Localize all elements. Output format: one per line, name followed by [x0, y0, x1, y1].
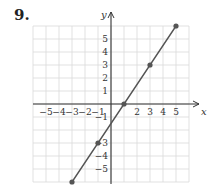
y-tick-label: 5 — [102, 34, 108, 44]
x-tick-label: 5 — [173, 107, 179, 117]
x-tick-label: 3 — [147, 107, 153, 117]
y-tick-label: −1 — [95, 112, 108, 122]
x-tick-label: −5 — [39, 107, 53, 117]
x-tick-label: −3 — [65, 107, 79, 117]
data-point — [147, 62, 152, 67]
data-point — [173, 23, 178, 28]
data-point — [121, 101, 126, 106]
x-axis-label: x — [201, 106, 207, 117]
y-tick-label: −4 — [95, 151, 109, 161]
x-tick-label: 2 — [134, 107, 140, 117]
x-tick-label: −2 — [78, 107, 91, 117]
x-tick-label: 4 — [160, 107, 166, 117]
y-tick-label: 2 — [102, 73, 108, 83]
y-tick-label: 4 — [102, 47, 108, 57]
data-point — [69, 179, 74, 184]
y-tick-label: 1 — [102, 86, 108, 96]
data-point — [95, 140, 100, 145]
x-tick-label: −4 — [52, 107, 66, 117]
y-tick-label: 3 — [102, 60, 108, 70]
coordinate-plane: xy−5−4−3−2−1234554321−1−3−4−5 — [0, 0, 210, 194]
y-tick-label: −5 — [95, 164, 109, 174]
y-axis-label: y — [100, 9, 107, 20]
